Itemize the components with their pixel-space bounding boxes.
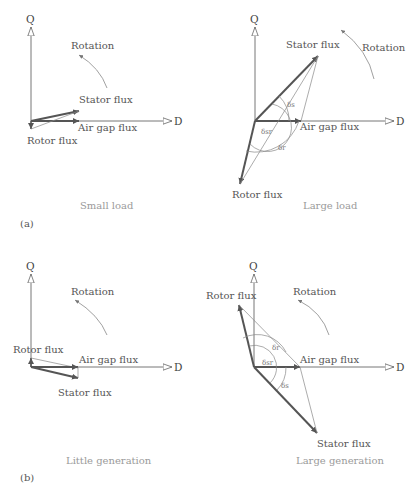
stator-flux-vector [31,367,78,378]
rotation-label: Rotation [71,286,115,297]
rotor-to-stator-line [240,56,318,184]
panel-a-tag: (a) [20,218,34,229]
air-gap-flux-label: Air gap flux [77,122,137,133]
panel-b-large-generation: Q D Rotation Rotor flux Air gap flux Sta… [206,260,404,466]
air-gap-flux-label: Air gap flux [299,121,359,132]
q-axis-label: Q [250,13,259,25]
delta-r-label: δr [278,144,286,152]
delta-sr-label: δsr [262,359,274,367]
rotor-flux-vector [239,305,254,367]
stator-flux-label: Stator flux [286,39,340,50]
caption-large-load: Large load [303,200,358,211]
d-axis-label: D [396,361,404,373]
stator-flux-vector [31,111,79,121]
d-axis-label: D [174,361,182,373]
q-axis-label: Q [249,260,258,272]
stator-flux-label: Stator flux [79,94,133,105]
q-axis-label: Q [26,260,35,272]
rotor-flux-label: Rotor flux [13,344,64,355]
delta-r-label: δr [272,344,280,352]
air-gap-flux-label: Air gap flux [78,354,138,365]
rotor-flux-label: Rotor flux [206,290,257,301]
air-gap-flux-label: Air gap flux [299,354,359,365]
rotor-flux-label: Rotor flux [232,189,283,200]
rotation-label: Rotation [362,42,406,53]
rotation-label: Rotation [71,40,115,51]
rotation-label: Rotation [293,286,337,297]
rotor-flux-vector [240,121,255,184]
stator-flux-label: Stator flux [58,387,112,398]
caption-large-generation: Large generation [296,455,385,466]
rotation-arrow [298,300,329,335]
q-axis-label: Q [26,13,35,25]
stator-flux-vector [254,367,317,433]
panel-b-little-generation: Q D Rotation Rotor flux Air gap flux Sta… [13,260,182,466]
stator-flux-vector [255,56,318,121]
delta-s-label: δs [281,382,289,390]
delta-s-label: δs [287,101,295,109]
caption-little-generation: Little generation [66,455,152,466]
d-axis-label: D [174,115,182,127]
rotation-arrow [79,55,107,88]
rotation-arrow [75,300,107,335]
delta-sr-label: δsr [261,128,273,136]
rotor-flux-label: Rotor flux [27,135,78,146]
panel-a-large-load: Q D Rotation Stator flux Air gap flux Ro… [232,13,406,211]
phasor-diagram-figure: Q D Rotation Stator flux Air gap flux Ro… [0,0,415,493]
caption-small-load: Small load [80,200,134,211]
panel-a-small-load: Q D Rotation Stator flux Air gap flux Ro… [26,13,182,211]
stator-flux-label: Stator flux [317,438,371,449]
panel-b-tag: (b) [20,472,34,483]
d-axis-label: D [396,115,404,127]
rotation-arrow [341,30,374,79]
